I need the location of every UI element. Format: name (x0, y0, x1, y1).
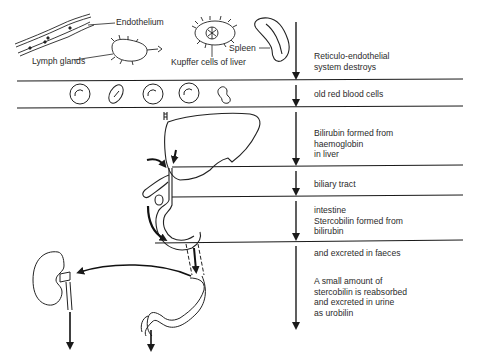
step-biliary: biliary tract (314, 179, 356, 190)
lymph-gland-icon (111, 35, 162, 65)
step-faeces: and excreted in faeces (314, 248, 400, 259)
arrow-into-liver (174, 150, 176, 160)
red-blood-cells-icon (70, 82, 230, 105)
liver-icon (164, 112, 260, 180)
arrow-colon-down (194, 248, 196, 270)
label-endothelium: Endothelium (116, 17, 164, 27)
step-old-rbc: old red blood cells (314, 89, 383, 100)
endothelium-icon (15, 14, 94, 56)
arrow-reabsorption (80, 265, 191, 276)
step-bilirubin: Bilirubin formed from haemoglobin in liv… (314, 128, 393, 160)
label-kupffer-cells: Kupffer cells of liver (171, 57, 246, 67)
spleen-icon (255, 18, 289, 62)
diagram-artwork (0, 0, 480, 359)
step-reticulo: Reticulo-endothelial system destroys (314, 51, 389, 72)
label-spleen: Spleen (229, 43, 256, 53)
gallbladder-duodenum-icon (143, 168, 201, 250)
step-intestine: intestine Stercobilin formed from biliru… (314, 205, 403, 237)
label-lymph-glands: Lymph glands (32, 56, 85, 66)
step-urine: A small amount of stercobilin is reabsor… (314, 276, 407, 318)
arrow-to-duct (147, 159, 164, 165)
kidney-icon (33, 252, 72, 310)
